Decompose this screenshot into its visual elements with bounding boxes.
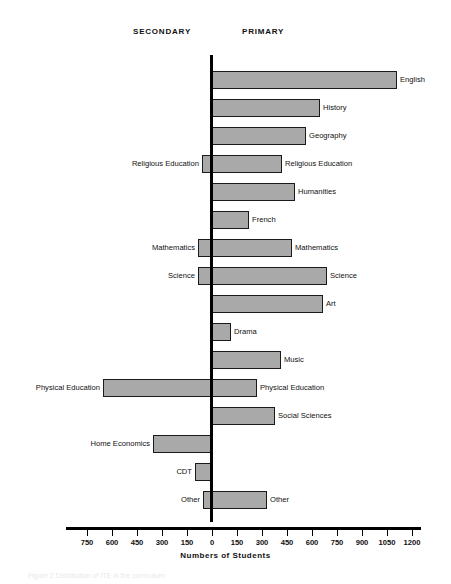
secondary-bar-label: Physical Education bbox=[36, 381, 100, 395]
x-axis-tick bbox=[412, 530, 413, 536]
bar-row: ScienceScience bbox=[0, 263, 451, 291]
x-axis-label: Numbers of Students bbox=[0, 551, 451, 560]
primary-bar bbox=[212, 407, 275, 425]
secondary-bar-label: Mathematics bbox=[152, 241, 195, 255]
x-axis-tick-label: 450 bbox=[131, 538, 144, 547]
bar-row: Music bbox=[0, 347, 451, 375]
bar-row: OtherOther bbox=[0, 487, 451, 515]
bar-row: CDT bbox=[0, 459, 451, 487]
x-axis-tick-label: 600 bbox=[106, 538, 119, 547]
primary-bar-label: Science bbox=[330, 269, 357, 283]
x-axis-tick bbox=[312, 530, 313, 536]
x-axis-tick-label: 1050 bbox=[379, 538, 396, 547]
primary-bar bbox=[212, 155, 282, 173]
primary-bar-label: Other bbox=[270, 493, 289, 507]
primary-bar bbox=[212, 295, 323, 313]
column-header-secondary: SECONDARY bbox=[133, 27, 191, 36]
x-axis-tick bbox=[287, 530, 288, 536]
bar-row: Drama bbox=[0, 319, 451, 347]
column-header-primary: PRIMARY bbox=[242, 27, 284, 36]
x-axis-tick-label: 750 bbox=[81, 538, 94, 547]
bar-row: Religious EducationReligious Education bbox=[0, 151, 451, 179]
secondary-bar-label: Religious Education bbox=[132, 157, 199, 171]
bar-row: Social Sciences bbox=[0, 403, 451, 431]
x-axis-tick-label: 900 bbox=[356, 538, 369, 547]
primary-bar bbox=[212, 351, 281, 369]
x-axis-tick bbox=[362, 530, 363, 536]
bar-row: History bbox=[0, 95, 451, 123]
primary-bar-label: Religious Education bbox=[285, 157, 352, 171]
figure-caption: Figure 2 Distribution of ITE in the curr… bbox=[28, 572, 165, 579]
x-axis-line bbox=[66, 527, 421, 530]
secondary-bar bbox=[153, 435, 212, 453]
x-axis-tick-label: 600 bbox=[306, 538, 319, 547]
x-axis-tick bbox=[87, 530, 88, 536]
primary-bar bbox=[212, 379, 257, 397]
primary-bar-label: History bbox=[323, 101, 347, 115]
x-axis-tick bbox=[137, 530, 138, 536]
x-axis-tick bbox=[237, 530, 238, 536]
x-axis-tick-label: 750 bbox=[331, 538, 344, 547]
secondary-bar bbox=[103, 379, 212, 397]
primary-bar bbox=[212, 211, 249, 229]
primary-bar bbox=[212, 99, 320, 117]
x-axis-tick bbox=[262, 530, 263, 536]
bar-row: Art bbox=[0, 291, 451, 319]
plot-area: EnglishHistoryGeographyReligious Educati… bbox=[0, 55, 451, 525]
secondary-bar-label: CDT bbox=[176, 465, 192, 479]
primary-bar-label: French bbox=[252, 213, 276, 227]
primary-bar bbox=[212, 183, 295, 201]
bar-row: Home Economics bbox=[0, 431, 451, 459]
bar-row: French bbox=[0, 207, 451, 235]
primary-bar-label: Music bbox=[284, 353, 304, 367]
primary-bar bbox=[212, 491, 267, 509]
primary-bar-label: Geography bbox=[309, 129, 347, 143]
bar-row: English bbox=[0, 67, 451, 95]
bar-row: Physical EducationPhysical Education bbox=[0, 375, 451, 403]
primary-bar bbox=[212, 323, 231, 341]
x-axis-tick-label: 150 bbox=[181, 538, 194, 547]
x-axis-tick bbox=[162, 530, 163, 536]
primary-bar-label: Social Sciences bbox=[278, 409, 332, 423]
secondary-bar-label: Other bbox=[181, 493, 200, 507]
x-axis-tick-label: 0 bbox=[210, 538, 214, 547]
bar-row: Geography bbox=[0, 123, 451, 151]
secondary-bar-label: Science bbox=[168, 269, 195, 283]
x-axis-tick-label: 150 bbox=[231, 538, 244, 547]
x-axis-tick-label: 1200 bbox=[404, 538, 421, 547]
x-axis-tick-label: 300 bbox=[256, 538, 269, 547]
primary-bar-label: Mathematics bbox=[295, 241, 338, 255]
bar-row: MathematicsMathematics bbox=[0, 235, 451, 263]
primary-bar-label: English bbox=[400, 73, 425, 87]
primary-bar-label: Art bbox=[326, 297, 336, 311]
primary-bar bbox=[212, 239, 292, 257]
primary-bar bbox=[212, 267, 327, 285]
bar-row: Humanities bbox=[0, 179, 451, 207]
x-axis-tick-label: 450 bbox=[281, 538, 294, 547]
x-axis-tick bbox=[112, 530, 113, 536]
x-axis-tick bbox=[187, 530, 188, 536]
x-axis-tick bbox=[337, 530, 338, 536]
secondary-bar-label: Home Economics bbox=[90, 437, 150, 451]
x-axis-tick-label: 300 bbox=[156, 538, 169, 547]
primary-bar bbox=[212, 71, 397, 89]
primary-bar-label: Drama bbox=[234, 325, 257, 339]
x-axis-tick bbox=[387, 530, 388, 536]
primary-bar-label: Humanities bbox=[298, 185, 336, 199]
primary-bar bbox=[212, 127, 306, 145]
zero-axis-line bbox=[210, 55, 213, 522]
bidirectional-bar-chart: SECONDARY PRIMARY EnglishHistoryGeograph… bbox=[0, 0, 451, 584]
primary-bar-label: Physical Education bbox=[260, 381, 324, 395]
x-axis-tick bbox=[212, 530, 213, 536]
